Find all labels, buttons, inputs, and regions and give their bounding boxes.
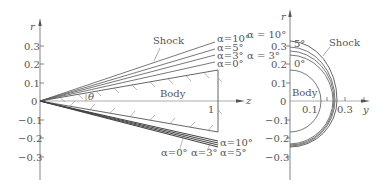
shock-cone-diagram: r 0.3 0.2 0.1 0 −0.1 −0.2 −0.3 z 1	[0, 0, 387, 189]
body-label-right: Body	[292, 87, 318, 98]
left-z-tick-1: 1	[208, 104, 214, 115]
body-hatching	[60, 72, 222, 130]
upper-alpha-10-b: α = 10°	[247, 29, 286, 40]
left-r-arrow	[38, 18, 41, 26]
right-tick-0: 0	[280, 96, 286, 107]
right-tick-0.1: 0.1	[271, 78, 287, 89]
left-panel: r 0.3 0.2 0.1 0 −0.1 −0.2 −0.3 z 1	[18, 18, 286, 180]
left-tick-neg0.1: −0.1	[18, 115, 42, 126]
lower-alpha-0: α=0°	[161, 147, 188, 158]
left-z-label: z	[245, 95, 252, 106]
right-y-tick-0.1: 0.1	[302, 104, 318, 115]
left-tick-0: 0	[31, 96, 37, 107]
right-tick-0.3: 0.3	[271, 41, 287, 52]
right-tick-neg0.1: −0.1	[265, 115, 289, 126]
shock-leader-left	[154, 48, 160, 61]
lower-alpha-5: α=5°	[220, 147, 247, 158]
upper-alpha-0: α=0°	[217, 58, 244, 69]
right-y-arrow	[361, 99, 370, 102]
left-tick-neg0.3: −0.3	[18, 152, 42, 163]
left-tick-0.1: 0.1	[24, 78, 40, 89]
body-label-left: Body	[160, 88, 186, 99]
right-y-tick-0.3: 0.3	[337, 104, 353, 115]
theta-label: θ	[88, 91, 94, 102]
lower-shock-lines	[40, 101, 218, 147]
left-r-label: r	[30, 21, 36, 32]
shock-label-right: Shock	[329, 37, 361, 48]
left-tick-0.2: 0.2	[24, 59, 40, 70]
shock-label-left: Shock	[153, 35, 185, 46]
shock-leader-right	[323, 47, 330, 56]
lower-alpha-3: α=3°	[191, 147, 218, 158]
upper-shock-lines	[40, 42, 215, 101]
right-r-arrow	[288, 9, 291, 17]
left-z-arrow	[236, 99, 245, 102]
right-alpha-5: 5°	[294, 38, 305, 49]
right-tick-0.2: 0.2	[271, 59, 287, 70]
right-y-label: y	[362, 104, 369, 115]
right-alpha-0: 0°	[294, 58, 305, 69]
right-tick-neg0.2: −0.2	[265, 133, 289, 144]
left-tick-0.3: 0.3	[24, 41, 40, 52]
right-tick-neg0.3: −0.3	[265, 152, 289, 163]
left-tick-neg0.2: −0.2	[18, 133, 42, 144]
right-r-label: r	[281, 11, 287, 22]
